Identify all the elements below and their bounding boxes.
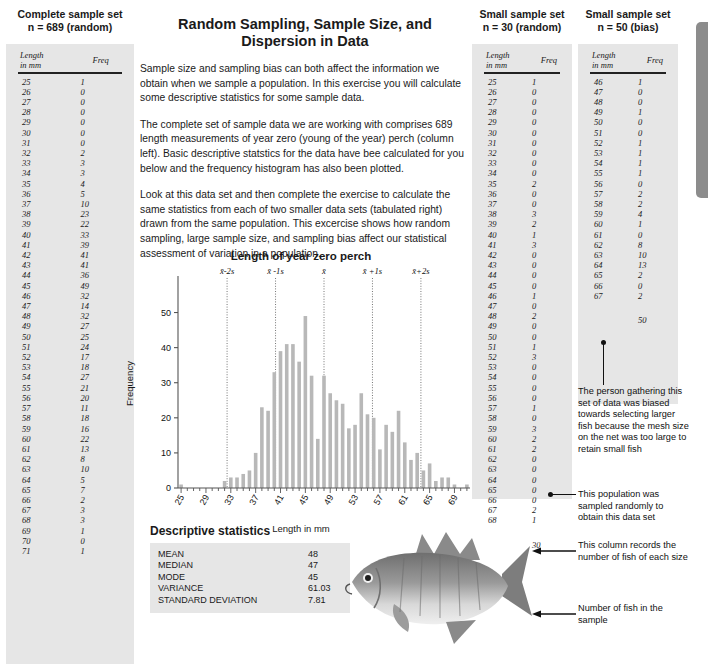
table-row: 392 <box>472 219 572 229</box>
total-note: Number of fish in the sample <box>578 603 690 626</box>
cell-freq: 2 <box>73 148 134 158</box>
stat-row: MODE45 <box>158 572 342 583</box>
cell-length: 65 <box>578 270 630 280</box>
page-side-tab[interactable] <box>696 22 708 198</box>
cell-freq: 2 <box>630 199 678 209</box>
table-row: 3922 <box>6 219 134 229</box>
cell-length: 45 <box>472 281 524 291</box>
cell-total: 50 <box>630 301 678 325</box>
table-row: 300 <box>472 128 572 138</box>
complete-sample-table: Length in mm Freq <box>6 50 134 71</box>
cell-freq: 0 <box>73 107 134 117</box>
histogram-bar <box>248 470 252 488</box>
table-row: 480 <box>578 97 678 107</box>
cell-length: 66 <box>472 495 524 505</box>
cell-length: 48 <box>472 311 524 321</box>
cell-freq: 3 <box>73 505 134 515</box>
cell-length: 50 <box>472 332 524 342</box>
cell-length: 50 <box>578 117 630 127</box>
cell-freq: 0 <box>630 128 678 138</box>
complete-sample-column: Complete sample set n = 689 (random) Len… <box>6 8 134 664</box>
cell-freq: 5 <box>73 475 134 485</box>
table-row: 251 <box>472 77 572 87</box>
histogram-bar <box>304 316 308 488</box>
cell-length: 44 <box>472 270 524 280</box>
cell-length: 54 <box>578 158 630 168</box>
table-row: 320 <box>472 148 572 158</box>
x-tick-label: 53 <box>347 493 361 507</box>
table-row: 550 <box>472 383 572 393</box>
table-row: 511 <box>472 342 572 352</box>
table-row: 594 <box>578 209 678 219</box>
table-row: 640 <box>472 475 572 485</box>
cell-length: 46 <box>578 77 630 87</box>
cell-freq: 2 <box>524 219 572 229</box>
complete-sample-n: n = 689 (random) <box>6 21 134 34</box>
cell-freq: 10 <box>73 199 134 209</box>
cell-length: 46 <box>6 291 73 301</box>
table-row: 413 <box>472 240 572 250</box>
table-row: 4927 <box>6 321 134 331</box>
cell-freq: 0 <box>630 281 678 291</box>
table-row: 490 <box>472 321 572 331</box>
histogram-bar <box>391 432 395 488</box>
stat-row: VARIANCE61.03 <box>158 583 342 594</box>
table-row: 652 <box>578 270 678 280</box>
cell-freq: 0 <box>524 107 572 117</box>
histogram-bar <box>241 474 245 488</box>
cell-length: 67 <box>472 505 524 515</box>
histogram-bar <box>359 393 363 488</box>
col-header-length: Length in mm <box>6 50 86 71</box>
cell-length: 68 <box>6 515 73 525</box>
descriptive-statistics-heading: Descriptive statistics <box>150 524 350 538</box>
table-row: 510 <box>578 128 678 138</box>
histogram-bar <box>316 439 320 488</box>
cell-length: 61 <box>472 444 524 454</box>
table-row: 3823 <box>6 209 134 219</box>
histogram-bar <box>366 414 370 488</box>
cell-freq: 0 <box>524 250 572 260</box>
table-row: 551 <box>578 168 678 178</box>
table-row: 610 <box>578 230 678 240</box>
cell-freq: 32 <box>73 291 134 301</box>
cell-length: 58 <box>472 413 524 423</box>
cell-length: 38 <box>472 209 524 219</box>
cell-length: 36 <box>472 189 524 199</box>
cell-length: 70 <box>6 536 73 546</box>
cell-freq: 1 <box>524 403 572 413</box>
table-row: 5818 <box>6 413 134 423</box>
histogram-bar <box>403 442 407 488</box>
cell-length: 34 <box>472 168 524 178</box>
x-tick-label: 41 <box>272 493 286 507</box>
cell-total-blank <box>472 526 524 550</box>
table-row: 6413 <box>578 260 678 270</box>
cell-freq: 5 <box>73 189 134 199</box>
cell-freq: 0 <box>524 138 572 148</box>
y-tick-label: 10 <box>161 448 171 458</box>
histogram-bar <box>279 351 283 488</box>
histogram-bar <box>422 470 426 488</box>
cell-freq: 0 <box>524 87 572 97</box>
stat-value: 61.03 <box>302 583 342 594</box>
table-row: 290 <box>472 117 572 127</box>
table-row: 582 <box>578 199 678 209</box>
table-row: 491 <box>578 107 678 117</box>
cell-freq: 14 <box>73 301 134 311</box>
cell-length: 56 <box>472 393 524 403</box>
cell-length: 60 <box>578 219 630 229</box>
cell-freq: 0 <box>524 158 572 168</box>
cell-length: 52 <box>472 352 524 362</box>
table-row: 4632 <box>6 291 134 301</box>
histogram-bar <box>272 372 276 488</box>
sd-marker-label-1: x̄ -1s <box>266 266 284 276</box>
cell-length: 64 <box>578 260 630 270</box>
page-title: Random Sampling, Sample Size, and Disper… <box>140 16 470 50</box>
cell-freq: 3 <box>524 352 572 362</box>
table-row: 580 <box>472 413 572 423</box>
table-row: 470 <box>578 87 678 97</box>
cell-freq: 1 <box>630 168 678 178</box>
cell-freq: 0 <box>73 138 134 148</box>
cell-length: 47 <box>472 301 524 311</box>
cell-freq: 3 <box>73 158 134 168</box>
cell-freq: 0 <box>73 87 134 97</box>
